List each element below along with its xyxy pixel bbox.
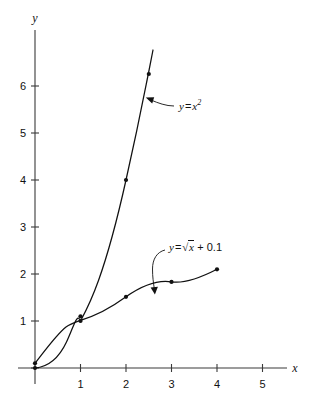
annotation-parabola-label: y=x2 xyxy=(179,99,201,112)
x-tick-label-2: 2 xyxy=(123,378,129,390)
y-axis-label: y xyxy=(31,11,38,25)
y-tick-label-6: 6 xyxy=(20,80,26,92)
figure-canvas: 1 2 3 4 5 6 1 2 3 4 5 y x xyxy=(0,0,310,409)
marker-group-sqrt xyxy=(33,267,219,365)
curve-parabola xyxy=(35,50,153,368)
y-tick-label-2: 2 xyxy=(20,268,26,280)
y-tick-label-5: 5 xyxy=(20,127,26,139)
data-point xyxy=(33,361,37,365)
y-tick-label-1: 1 xyxy=(20,315,26,327)
x-tick-label-1: 1 xyxy=(77,378,83,390)
data-point xyxy=(147,72,151,76)
x-tick-label-3: 3 xyxy=(168,378,174,390)
data-point xyxy=(78,319,82,323)
data-point xyxy=(215,267,219,271)
data-point xyxy=(78,314,82,318)
annotation-parabola-exponent: 2 xyxy=(197,98,201,107)
y-tick-label-4: 4 xyxy=(20,174,26,186)
y-tick-label-3: 3 xyxy=(20,221,26,233)
x-tick-label-5: 5 xyxy=(259,378,265,390)
annotation-sqrt-label: y=√x+ 0.1 xyxy=(169,242,222,253)
data-point xyxy=(169,280,173,284)
chart-svg: 1 2 3 4 5 6 1 2 3 4 5 y x xyxy=(0,0,310,409)
marker-group-parabola xyxy=(33,72,151,370)
data-point xyxy=(124,295,128,299)
sqrt-leader-arrowhead xyxy=(151,287,158,295)
annotation-sqrt-plus: + 0.1 xyxy=(194,241,222,253)
parabola-leader-line xyxy=(151,100,174,106)
x-axis-label: x xyxy=(291,361,298,375)
data-point xyxy=(33,366,37,370)
data-point xyxy=(124,178,128,182)
x-tick-label-4: 4 xyxy=(214,378,220,390)
parabola-leader-arrowhead xyxy=(146,97,154,103)
